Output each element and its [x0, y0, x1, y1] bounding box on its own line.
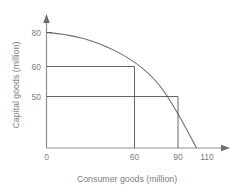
y-axis-arrowhead	[43, 14, 50, 23]
x-tick-label-110: 110	[200, 152, 214, 162]
x-tick-label-0: 0	[44, 152, 49, 162]
x-tick-label-60: 60	[130, 152, 140, 162]
ppf-chart: 80 60 50 0 60 90 110 Consumer goods (mil…	[0, 0, 247, 195]
y-tick-label-50: 50	[32, 92, 42, 102]
chart-canvas: 80 60 50 0 60 90 110 Consumer goods (mil…	[0, 0, 247, 195]
x-tick-label-90: 90	[173, 152, 183, 162]
ppf-curve	[47, 33, 197, 149]
y-tick-label-80: 80	[32, 28, 42, 38]
y-tick-label-60: 60	[32, 62, 42, 72]
x-axis-title: Consumer goods (million)	[77, 174, 177, 184]
y-axis-title: Capital goods (million)	[11, 41, 21, 128]
x-axis-arrowhead	[221, 145, 230, 151]
